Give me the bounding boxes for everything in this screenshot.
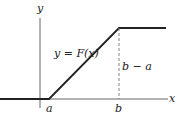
- y-axis-label: y: [37, 3, 43, 14]
- tick-label-b: b: [115, 103, 122, 114]
- height-label: b − a: [122, 61, 152, 72]
- x-axis-label: x: [169, 93, 175, 104]
- curve-label: y = F(x): [54, 48, 99, 59]
- tick-label-a: a: [46, 103, 53, 114]
